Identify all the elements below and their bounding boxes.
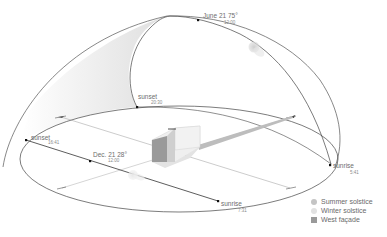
- legend-item-summer: Summer solstice: [311, 197, 373, 206]
- dec-sunrise-time: 7:31: [238, 208, 247, 213]
- dec-sunrise-marker: [217, 200, 219, 202]
- june-sunset-time: 20:30: [151, 100, 163, 105]
- june-noon-time: 12:00: [224, 20, 236, 25]
- june-sunrise-marker: [329, 164, 331, 166]
- june-sunset-marker: [136, 106, 138, 108]
- june-sunrise-label: sunrise: [333, 162, 354, 169]
- legend-label: Winter solstice: [321, 207, 367, 214]
- june-noon-label: June 21 75°: [203, 12, 238, 19]
- building-block: [152, 126, 200, 168]
- june-noon-marker: [197, 19, 199, 21]
- dec-sunset-time: 16:41: [48, 140, 60, 145]
- dec-noon-marker: [89, 160, 91, 162]
- west-facade-swatch-icon: [311, 217, 317, 223]
- dec-sunrise-label: sunrise: [221, 200, 242, 207]
- legend-label: West façade: [321, 216, 360, 223]
- june-sunset-label: sunset: [138, 93, 157, 100]
- legend: Summer solstice Winter solstice West faç…: [311, 197, 373, 224]
- dome-shaded-region: [21, 16, 167, 140]
- winter-solstice-swatch-icon: [311, 208, 317, 214]
- west-facade: [152, 136, 167, 162]
- june-sunrise-time: 5:41: [350, 170, 359, 175]
- legend-item-facade: West façade: [311, 215, 373, 224]
- dec-sunset-marker: [25, 139, 27, 141]
- dec-noon-time: 12:00: [108, 158, 120, 163]
- dec-noon-label: Dec. 21 28°: [93, 151, 127, 158]
- legend-label: Summer solstice: [321, 198, 373, 205]
- legend-item-winter: Winter solstice: [311, 206, 373, 215]
- summer-solstice-swatch-icon: [311, 199, 317, 205]
- compass-marker-sw: [57, 187, 66, 189]
